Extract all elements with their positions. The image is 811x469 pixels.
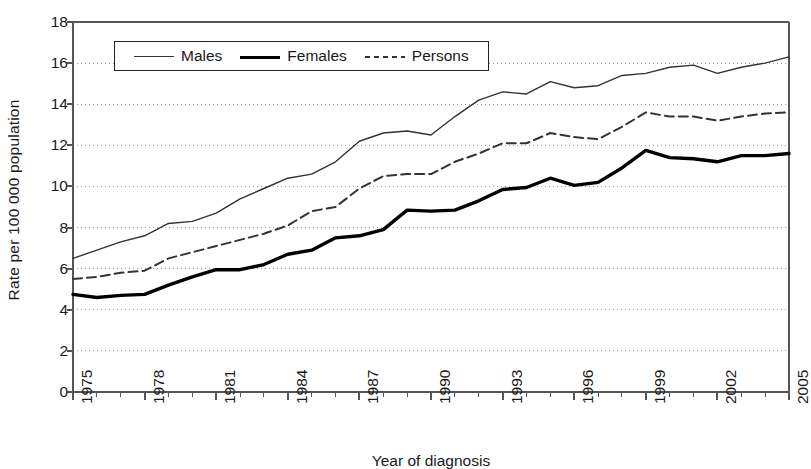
legend-entry-females: Females [231, 47, 355, 65]
x-axis-title-text: Year of diagnosis [372, 452, 490, 469]
legend-label-males: Males [181, 47, 222, 65]
x-tick-label: 2005 [795, 370, 811, 404]
legend-entry-males: Males [125, 47, 231, 65]
legend-line-females-icon [240, 50, 280, 62]
x-tick-label: 1996 [580, 370, 596, 404]
x-tick-label: 2002 [723, 370, 739, 404]
x-tick-label: 1993 [509, 370, 525, 404]
legend-label-persons: Persons [412, 47, 469, 65]
x-tick-label: 1978 [151, 370, 167, 404]
x-tick-label: 1987 [365, 370, 381, 404]
x-tick-label: 1984 [294, 370, 310, 404]
x-tick-label: 1990 [437, 370, 453, 404]
x-tick-label: 1975 [79, 370, 95, 404]
legend-label-females: Females [287, 47, 346, 65]
legend-line-persons-icon [365, 50, 405, 62]
x-tick-label: 1999 [652, 370, 668, 404]
legend-line-males-icon [134, 50, 174, 62]
x-tick-label: 1981 [222, 370, 238, 404]
legend-entry-persons: Persons [356, 47, 478, 65]
chart-legend: Males Females Persons [114, 41, 489, 71]
x-axis-title: Year of diagnosis [73, 452, 789, 469]
